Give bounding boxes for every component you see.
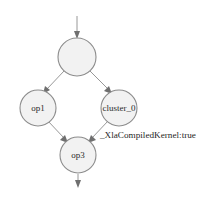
node-op3[interactable]: op3: [60, 137, 96, 173]
edge-op3-to-exit: [75, 174, 81, 188]
node-op1-label: op1: [31, 103, 45, 113]
graph-svg-root: op1 cluster_0 op3 _XlaCompiledKernel:tru…: [0, 0, 220, 203]
node-cluster-0-label: cluster_0: [103, 103, 136, 113]
edge-root-to-op1: [43, 71, 64, 94]
edge-op1-to-op3-line: [48, 121, 64, 138]
node-op3-label: op3: [71, 150, 85, 160]
node-root-circle[interactable]: [58, 38, 96, 76]
node-op1[interactable]: op1: [20, 90, 56, 126]
edge-root-to-cluster0-line: [90, 71, 108, 89]
node-root[interactable]: [58, 38, 96, 76]
edge-root-to-cluster0: [90, 71, 112, 94]
edge-op3-to-exit-arrowhead: [75, 180, 81, 188]
edge-root-to-op1-line: [47, 71, 64, 89]
edge-entry-to-root: [74, 16, 80, 39]
cluster-attribute-label: _XlaCompiledKernel:true: [99, 130, 196, 140]
graph-diagram-canvas: op1 cluster_0 op3 _XlaCompiledKernel:tru…: [0, 0, 220, 203]
edge-op1-to-op3: [48, 121, 68, 143]
node-cluster-0[interactable]: cluster_0: [101, 90, 137, 126]
